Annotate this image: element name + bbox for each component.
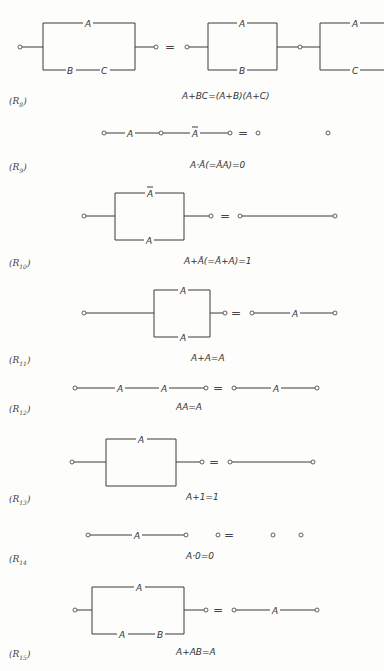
terminal xyxy=(315,608,319,612)
contact-a: A xyxy=(238,19,245,29)
contact-b: B xyxy=(67,66,73,76)
terminal xyxy=(70,460,74,464)
rule-r12: A A = A (R12) AA=A xyxy=(9,381,319,416)
contact-a: A xyxy=(291,309,298,319)
formula: A+1=1 xyxy=(185,492,219,502)
formula: A·0=0 xyxy=(185,551,214,561)
equals-sign: = xyxy=(165,40,175,54)
terminal xyxy=(311,460,315,464)
terminal xyxy=(216,533,220,537)
terminal xyxy=(326,131,330,135)
contact-a: A xyxy=(84,19,91,29)
rule-r10: A A = (R10) A+Ā(=Ā+A)=1 xyxy=(9,186,337,270)
terminal xyxy=(223,311,227,315)
contact-b: B xyxy=(157,630,163,640)
rule-r8: A B C = A B A xyxy=(9,17,384,108)
r8-right-circuit: A B A C xyxy=(185,17,384,76)
rule-r11: A A = A (R11) A+A=A xyxy=(9,284,337,367)
terminal xyxy=(232,608,236,612)
terminal xyxy=(256,131,260,135)
rule-r9: A A = (R9) A·Ā(=ĀA)=0 xyxy=(9,125,330,174)
contact-a: A xyxy=(145,236,152,246)
rule-label: (R10) xyxy=(9,258,31,270)
contact-a-bar: A xyxy=(191,129,198,139)
terminal xyxy=(315,386,319,390)
contact-a: A xyxy=(179,286,186,296)
formula: A+AB=A xyxy=(175,647,216,657)
contact-a: A xyxy=(116,384,123,394)
terminal xyxy=(86,533,90,537)
terminal xyxy=(159,131,163,135)
terminal xyxy=(250,311,254,315)
terminal xyxy=(73,386,77,390)
terminal xyxy=(228,460,232,464)
contact-a-bar: A xyxy=(146,189,153,199)
equals-sign: = xyxy=(209,455,219,469)
contact-c: C xyxy=(352,66,359,76)
contact-a: A xyxy=(160,384,167,394)
switching-algebra-diagram: A B C = A B A xyxy=(0,0,384,671)
formula: A+A=A xyxy=(190,353,225,363)
terminal xyxy=(228,131,232,135)
contact-a: A xyxy=(351,19,358,29)
contact-b: B xyxy=(239,66,245,76)
rule-label: (R14 xyxy=(9,554,27,566)
terminal xyxy=(333,214,337,218)
formula: AA=A xyxy=(175,402,202,412)
contact-a: A xyxy=(135,583,142,593)
contact-a: A xyxy=(126,129,133,139)
equals-sign: = xyxy=(224,528,234,542)
rule-label: (R12) xyxy=(9,404,31,416)
terminal xyxy=(73,608,77,612)
contact-a: A xyxy=(137,435,144,445)
rule-label: (R13) xyxy=(9,494,31,506)
rule-r13: A = (R13) A+1=1 xyxy=(9,433,315,506)
equals-sign: = xyxy=(231,306,241,320)
terminal xyxy=(238,214,242,218)
terminal xyxy=(232,386,236,390)
contact-a: A xyxy=(179,333,186,343)
terminal xyxy=(271,533,275,537)
terminal xyxy=(184,533,188,537)
terminal xyxy=(209,214,213,218)
formula: A+Ā(=Ā+A)=1 xyxy=(183,256,252,266)
terminal xyxy=(102,131,106,135)
terminal xyxy=(204,386,208,390)
r8-left-circuit: A B C xyxy=(18,17,158,76)
rule-label: (R15) xyxy=(9,649,31,661)
terminal xyxy=(204,608,208,612)
formula: A·Ā(=ĀA)=0 xyxy=(189,160,246,170)
terminal xyxy=(333,311,337,315)
equals-sign: = xyxy=(238,126,248,140)
rule-r14: A = (R14 A·0=0 xyxy=(9,528,303,566)
contact-a: A xyxy=(133,531,140,541)
rule-r15: A A B = A (R15) A+AB=A xyxy=(9,581,319,661)
contact-a: A xyxy=(272,384,279,394)
terminal xyxy=(154,45,158,49)
formula: A+BC=(A+B)(A+C) xyxy=(181,91,270,101)
rule-label: (R8) xyxy=(9,96,27,108)
rule-label: (R11) xyxy=(9,355,31,367)
terminal xyxy=(82,311,86,315)
terminal xyxy=(299,533,303,537)
terminal xyxy=(185,45,189,49)
contact-c: C xyxy=(101,66,108,76)
contact-a: A xyxy=(271,606,278,616)
equals-sign: = xyxy=(213,603,223,617)
equals-sign: = xyxy=(213,381,223,395)
equals-sign: = xyxy=(220,209,230,223)
rule-label: (R9) xyxy=(9,162,27,174)
terminal xyxy=(298,45,302,49)
terminal xyxy=(200,460,204,464)
contact-a: A xyxy=(118,630,125,640)
terminal xyxy=(18,45,22,49)
terminal xyxy=(82,214,86,218)
